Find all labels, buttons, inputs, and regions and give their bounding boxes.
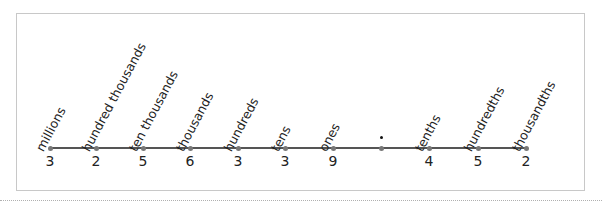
place-digit: 2 bbox=[92, 153, 101, 169]
place-digit: 2 bbox=[522, 153, 531, 169]
place-digit: 6 bbox=[186, 153, 195, 169]
place-digit: 5 bbox=[139, 153, 148, 169]
place-digit: 3 bbox=[46, 153, 55, 169]
place-digit: 3 bbox=[281, 153, 290, 169]
number-line bbox=[49, 147, 527, 149]
place-digit: 9 bbox=[329, 153, 338, 169]
place-digit: 4 bbox=[425, 153, 434, 169]
place-digit: 3 bbox=[234, 153, 243, 169]
place-digit: 5 bbox=[474, 153, 483, 169]
tick-mark bbox=[379, 146, 384, 151]
decimal-point bbox=[380, 136, 383, 139]
divider bbox=[0, 200, 602, 201]
